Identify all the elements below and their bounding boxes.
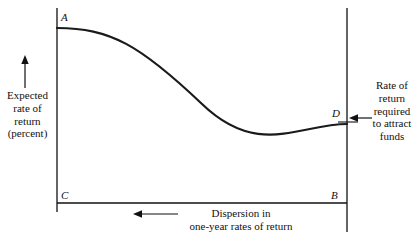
point-label-b: B	[331, 190, 338, 201]
point-label-a: A	[61, 12, 68, 23]
expected-return-curve	[57, 28, 347, 135]
point-label-d: D	[332, 108, 340, 119]
point-label-c: C	[61, 190, 68, 201]
figure-expected-return-dispersion: Expected rate of return (percent) Rate o…	[0, 0, 418, 242]
y-axis-arrow	[21, 55, 28, 88]
figure-canvas	[0, 0, 418, 242]
right-note-label: Rate of return required to attract funds	[366, 79, 418, 143]
x-axis-caption: Dispersion in one-year rates of return	[156, 207, 326, 233]
y-axis-label: Expected rate of return (percent)	[0, 89, 55, 140]
